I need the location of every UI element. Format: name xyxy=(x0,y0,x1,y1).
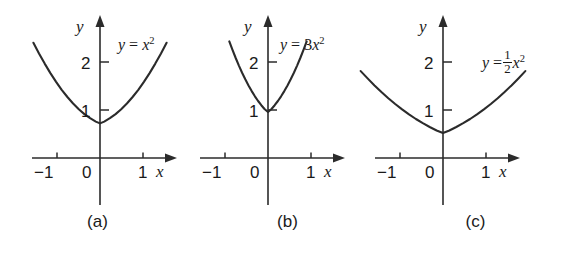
panel-c-eq-fraction: 12 xyxy=(503,49,511,77)
panel-c-plot xyxy=(378,0,583,215)
panel-b-origin-label: 0 xyxy=(250,164,259,181)
panel-c-y-axis-label: y xyxy=(419,18,427,35)
panel-c-eq-numerator: 1 xyxy=(503,49,511,62)
panel-c-eq-equals: = xyxy=(493,54,502,71)
panel-c-ytick-label-1: 1 xyxy=(424,103,433,120)
panel-c-origin-label: 0 xyxy=(425,164,434,181)
panel-a-xtick-label-1: 1 xyxy=(138,164,147,181)
panel-a-plot xyxy=(0,0,195,215)
panel-b-ytick-label-2: 2 xyxy=(249,55,258,72)
panel-b-eq-equals: = xyxy=(291,36,300,53)
x-axis-arrowhead-icon xyxy=(165,154,177,163)
panel-a-ytick-label-2: 2 xyxy=(81,55,90,72)
panel-c-xtick-label-1: 1 xyxy=(481,164,490,181)
panel-a-eq-exponent: 2 xyxy=(149,35,154,46)
x-axis-arrowhead-icon xyxy=(508,154,520,163)
panel-b-xtick-label-1: 1 xyxy=(306,164,315,181)
panel-b-eq-lhs: y xyxy=(280,36,287,53)
parabola-comparison-figure: y x −1 1 0 1 2 y = x2 (a) y x xyxy=(0,0,583,255)
panel-a-x-axis-label: x xyxy=(156,163,164,180)
panel-c-xtick-label-minus1: −1 xyxy=(377,164,396,181)
panel-c-caption: (c) xyxy=(378,212,573,232)
panel-b-xtick-label-minus1: −1 xyxy=(202,164,221,181)
y-axis-arrowhead-icon xyxy=(264,15,273,27)
panel-c-eq-lhs: y xyxy=(482,54,489,71)
y-axis-arrowhead-icon xyxy=(96,15,105,27)
panel-a-ytick-label-1: 1 xyxy=(81,103,90,120)
panel-b: y x −1 1 0 1 2 y = 3x2 (b) xyxy=(190,0,385,255)
panel-c-x-axis-label: x xyxy=(499,163,507,180)
panel-c: y x −1 1 0 1 2 y =12x2 (c) xyxy=(378,0,583,255)
panel-c-eq-variable: x xyxy=(513,54,520,71)
panel-b-caption: (b) xyxy=(190,212,385,232)
panel-a-y-axis-label: y xyxy=(76,18,84,35)
panel-b-eq-coefficient: 3 xyxy=(304,36,312,53)
panel-a-caption: (a) xyxy=(0,212,195,232)
panel-a: y x −1 1 0 1 2 y = x2 (a) xyxy=(0,0,195,255)
panel-b-ytick-label-1: 1 xyxy=(249,103,258,120)
panel-a-eq-lhs: y xyxy=(118,36,125,53)
panel-b-x-axis-label: x xyxy=(324,163,332,180)
panel-b-equation-label: y = 3x2 xyxy=(280,36,325,53)
panel-c-ytick-label-2: 2 xyxy=(424,55,433,72)
x-axis-arrowhead-icon xyxy=(333,154,345,163)
y-axis-arrowhead-icon xyxy=(439,15,448,27)
panel-c-eq-denominator: 2 xyxy=(503,62,511,76)
panel-c-equation-label: y =12x2 xyxy=(482,49,525,77)
panel-a-eq-equals: = xyxy=(129,36,138,53)
panel-a-origin-label: 0 xyxy=(82,164,91,181)
panel-a-xtick-label-minus1: −1 xyxy=(34,164,53,181)
panel-b-plot xyxy=(190,0,385,215)
panel-b-eq-exponent: 2 xyxy=(319,35,324,46)
panel-b-y-axis-label: y xyxy=(244,18,252,35)
panel-a-equation-label: y = x2 xyxy=(118,36,155,53)
panel-c-eq-exponent: 2 xyxy=(520,53,525,64)
